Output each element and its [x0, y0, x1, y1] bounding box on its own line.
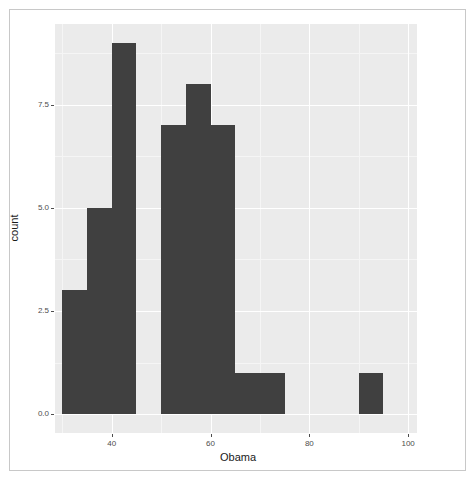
- x-tick-label: 60: [206, 440, 215, 448]
- y-tick-label: 2.5: [38, 307, 49, 315]
- gridline-major-horizontal: [55, 414, 417, 415]
- histogram-bar: [260, 373, 285, 414]
- y-tick-mark: [51, 208, 54, 209]
- plot-panel: [55, 24, 417, 433]
- gridline-major-vertical: [408, 24, 409, 433]
- x-tick-mark: [112, 434, 113, 437]
- histogram-bar: [161, 125, 186, 414]
- y-tick-label: 7.5: [38, 101, 49, 109]
- histogram-bar: [186, 84, 211, 415]
- gridline-minor-vertical: [260, 24, 261, 433]
- x-tick-label: 40: [107, 440, 116, 448]
- y-tick-mark: [51, 105, 54, 106]
- histogram-bar: [112, 43, 137, 415]
- gridline-minor-horizontal: [55, 156, 417, 157]
- x-tick-mark: [211, 434, 212, 437]
- chart-figure: 0.02.55.07.5 406080100 Obama count: [0, 0, 476, 491]
- histogram-bar: [211, 125, 236, 414]
- x-tick-mark: [408, 434, 409, 437]
- histogram-bar: [87, 208, 112, 415]
- x-axis-label: Obama: [0, 451, 476, 463]
- x-tick-mark: [309, 434, 310, 437]
- histogram-bar: [359, 373, 384, 414]
- y-tick-label: 5.0: [38, 204, 49, 212]
- gridline-major-vertical: [309, 24, 310, 433]
- y-tick-mark: [51, 311, 54, 312]
- y-tick-label: 0.0: [38, 410, 49, 418]
- gridline-major-horizontal: [55, 105, 417, 106]
- histogram-bar: [62, 290, 87, 414]
- x-tick-label: 100: [401, 440, 414, 448]
- x-tick-label: 80: [305, 440, 314, 448]
- y-axis-label: count: [8, 215, 20, 242]
- gridline-minor-horizontal: [55, 53, 417, 54]
- plot-area: 0.02.55.07.5 406080100 Obama count: [0, 0, 476, 491]
- gridline-minor-vertical: [359, 24, 360, 433]
- y-tick-mark: [51, 414, 54, 415]
- histogram-bar: [235, 373, 260, 414]
